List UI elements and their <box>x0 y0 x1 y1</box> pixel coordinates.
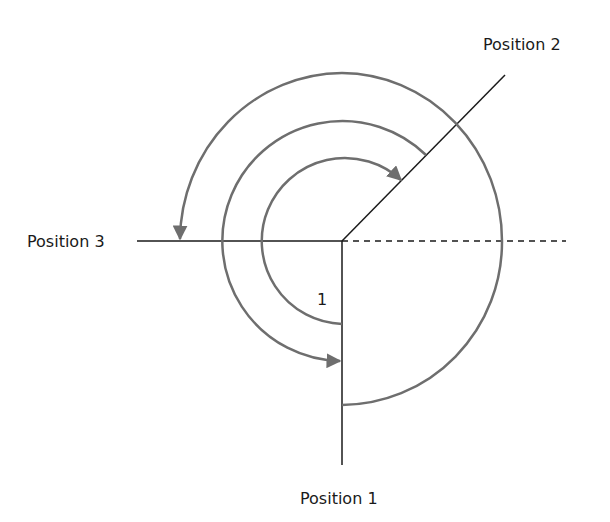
angle-marker-label: 1 <box>317 290 327 309</box>
position-1-label: Position 1 <box>300 489 378 508</box>
outer-rotation-arc <box>180 73 502 405</box>
rotation-diagram: Position 3 Position 2 Position 1 1 <box>0 0 610 522</box>
position-2-label: Position 2 <box>483 35 561 54</box>
position-3-label: Position 3 <box>27 232 105 251</box>
